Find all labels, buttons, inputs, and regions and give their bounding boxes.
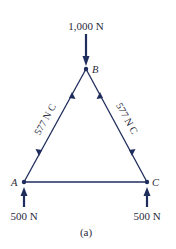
reaction-arrowhead-a-icon xyxy=(21,187,28,196)
member-ab xyxy=(24,69,86,182)
load-arrowhead-b-icon xyxy=(83,56,90,66)
member-label-bc: 577 N C xyxy=(114,101,140,136)
arrowhead-bc-upper-icon xyxy=(97,92,104,99)
joint-a xyxy=(22,180,26,184)
reaction-label-a: 500 N xyxy=(10,210,37,222)
figure-caption: (a) xyxy=(80,226,93,239)
arrowhead-bc-lower-icon xyxy=(129,149,136,156)
node-label-a: A xyxy=(10,177,18,188)
joint-b xyxy=(84,67,88,71)
node-label-b: B xyxy=(92,64,99,75)
reaction-arrowhead-c-icon xyxy=(144,187,151,196)
joint-c xyxy=(145,180,149,184)
member-label-ab: 577 N C xyxy=(32,102,58,137)
arrowhead-ab-lower-icon xyxy=(36,149,43,156)
reaction-label-c: 500 N xyxy=(133,210,160,222)
truss-diagram: 1,000 N B A C 577 N C 577 N C 500 N 500 … xyxy=(0,0,176,249)
arrowhead-ab-upper-icon xyxy=(69,92,76,99)
node-label-c: C xyxy=(152,177,160,188)
load-label-b: 1,000 N xyxy=(68,20,104,32)
